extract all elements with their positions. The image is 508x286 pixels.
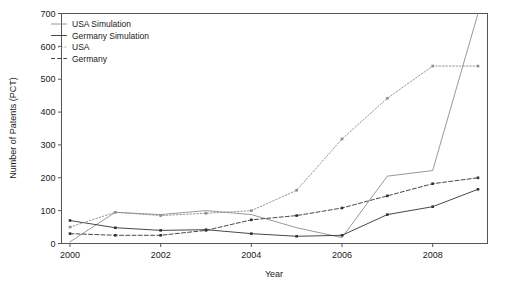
x-axis-ticks: 20002002200420062008: [60, 244, 443, 260]
y-tick-label: 300: [40, 140, 55, 150]
y-axis-title: Number of Patents (PCT): [8, 77, 18, 179]
y-tick-label: 500: [40, 74, 55, 84]
data-point-marker: [477, 176, 480, 179]
data-point-marker: [431, 182, 434, 185]
data-point-marker: [341, 234, 344, 237]
data-point-marker: [205, 229, 208, 232]
data-point-marker: [159, 234, 162, 237]
data-point-marker: [386, 195, 389, 198]
data-point-marker: [114, 234, 117, 237]
data-point-marker: [69, 226, 72, 229]
data-point-marker: [431, 205, 434, 208]
data-point-marker: [477, 65, 480, 68]
chart-container: 0100200300400500600700 20002002200420062…: [0, 0, 508, 286]
data-point-marker: [477, 188, 480, 191]
plot-frame: [62, 14, 488, 244]
y-tick-label: 100: [40, 206, 55, 216]
data-point-marker: [386, 97, 389, 100]
data-point-marker: [114, 226, 117, 229]
data-point-marker: [114, 211, 117, 214]
data-point-marker: [341, 138, 344, 141]
data-point-marker: [159, 229, 162, 232]
legend-label-germany: Germany: [72, 54, 108, 64]
line-chart: 0100200300400500600700 20002002200420062…: [0, 0, 508, 286]
data-point-marker: [250, 232, 253, 235]
series-group: [69, 14, 480, 242]
y-tick-label: 200: [40, 173, 55, 183]
data-point-marker: [250, 219, 253, 222]
data-point-marker: [205, 212, 208, 215]
data-point-marker: [69, 232, 72, 235]
series-line-usa: [70, 66, 478, 227]
chart-legend: USA SimulationGermany SimulationUSAGerma…: [51, 19, 149, 64]
data-point-marker: [295, 214, 298, 217]
data-point-marker: [295, 189, 298, 192]
y-tick-label: 0: [50, 239, 55, 249]
data-point-marker: [250, 209, 253, 212]
y-tick-label: 700: [40, 9, 55, 19]
data-point-marker: [431, 65, 434, 68]
x-tick-label: 2004: [241, 250, 261, 260]
legend-label-germany-simulation: Germany Simulation: [72, 31, 149, 41]
x-tick-label: 2008: [423, 250, 443, 260]
x-axis-title: Year: [265, 269, 283, 279]
y-tick-label: 600: [40, 42, 55, 52]
data-point-marker: [386, 213, 389, 216]
legend-label-usa: USA: [72, 42, 90, 52]
x-tick-label: 2006: [332, 250, 352, 260]
y-axis-ticks: 0100200300400500600700: [40, 9, 61, 249]
series-line-usa-simulation: [70, 14, 478, 242]
x-tick-label: 2000: [60, 250, 80, 260]
data-point-marker: [295, 235, 298, 238]
series-line-germany: [70, 178, 478, 236]
legend-label-usa-simulation: USA Simulation: [72, 19, 131, 29]
data-point-marker: [159, 214, 162, 217]
data-point-marker: [69, 219, 72, 222]
x-tick-label: 2002: [151, 250, 171, 260]
data-point-marker: [341, 207, 344, 210]
y-tick-label: 400: [40, 107, 55, 117]
